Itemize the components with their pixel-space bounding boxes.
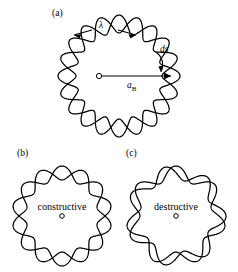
arc-element-arrowhead (158, 66, 163, 72)
wavelength-arrow-left (74, 30, 92, 35)
panel-a-drawing: aB λ ds (0, 0, 238, 140)
panel-a: (a) aB λ ds (0, 0, 238, 140)
wavelength-symbol: λ (98, 19, 104, 30)
panel-c-caption: destructive (154, 201, 198, 212)
panel-b-caption: constructive (38, 201, 87, 212)
panel-c-drawing: destructive (118, 140, 238, 272)
panel-c-label: (c) (126, 148, 137, 158)
figure-de-broglie-orbits: (a) aB λ ds (b) (0, 0, 238, 272)
arc-element-label: ds (160, 44, 169, 54)
nucleus-marker-a (96, 73, 101, 78)
bohr-radius-label: aB (127, 80, 137, 93)
panel-b-drawing: constructive (4, 140, 120, 272)
panel-a-label: (a) (52, 8, 63, 18)
bohr-radius-subscript: B (132, 85, 137, 93)
nucleus-marker-b (60, 214, 65, 219)
panel-b-label: (b) (17, 148, 28, 158)
panel-b: (b) constructive (4, 140, 120, 272)
panel-c: (c) destructive (118, 140, 238, 272)
nucleus-marker-c (174, 214, 179, 219)
radius-arrowhead (164, 73, 171, 80)
